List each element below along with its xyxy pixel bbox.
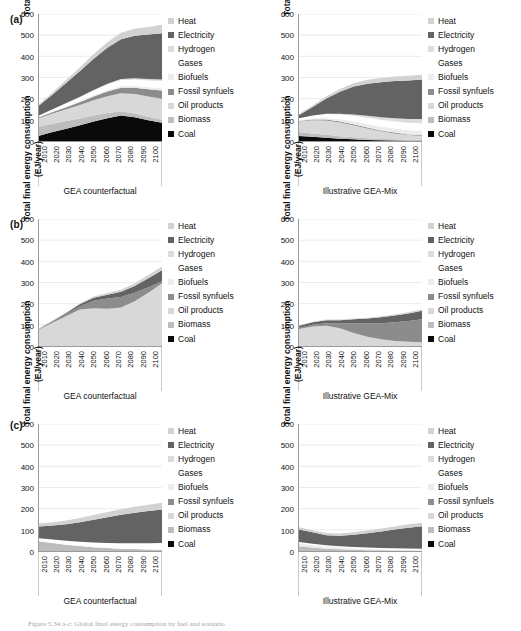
legend-label: Gases [438, 59, 463, 68]
legend-item-hydrogen[interactable]: Hydrogen [428, 42, 520, 56]
x-axis-ticks: 2010202020302040205020602070208020902100 [38, 351, 162, 387]
legend-label: Electricity [178, 236, 214, 245]
panel-subtitle: GEA counterfactual [22, 596, 178, 606]
legend-item-fossil-synfuels[interactable]: Fossil synfuels [428, 84, 520, 98]
legend-item-hydrogen[interactable]: Hydrogen [168, 247, 260, 261]
legend-item-heat[interactable]: Heat [168, 14, 260, 28]
x-tick-label: 2020 [312, 351, 321, 368]
legend-item-oil-products[interactable]: Oil products [168, 99, 260, 113]
legend-swatch-icon [168, 527, 174, 533]
legend-item-biofuels[interactable]: Biofuels [168, 275, 260, 289]
legend-label: Biofuels [438, 278, 468, 287]
legend-item-oil-products[interactable]: Oil products [428, 99, 520, 113]
y-tick-label: 400 [281, 52, 294, 61]
legend-label: Coal [178, 130, 195, 139]
plot-area: 0100200300400500600 [38, 14, 162, 142]
legend-item-heat[interactable]: Heat [428, 14, 520, 28]
legend-swatch-icon [168, 294, 174, 300]
legend-item-gases[interactable]: Gases [428, 56, 520, 70]
legend-item-biomass[interactable]: Biomass [428, 113, 520, 127]
legend-item-coal[interactable]: Coal [428, 127, 520, 141]
legend-item-coal[interactable]: Coal [168, 537, 260, 551]
legend-item-gases[interactable]: Gases [168, 261, 260, 275]
legend-item-electricity[interactable]: Electricity [428, 233, 520, 247]
legend-item-biomass[interactable]: Biomass [168, 113, 260, 127]
legend-item-fossil-synfuels[interactable]: Fossil synfuels [168, 289, 260, 303]
legend-item-biofuels[interactable]: Biofuels [428, 275, 520, 289]
legend-swatch-icon [428, 32, 434, 38]
legend-item-heat[interactable]: Heat [168, 219, 260, 233]
legend-item-electricity[interactable]: Electricity [428, 28, 520, 42]
x-tick-label: 2040 [337, 556, 346, 573]
legend-item-electricity[interactable]: Electricity [428, 438, 520, 452]
y-tick-label: 300 [281, 74, 294, 83]
legend-item-biomass[interactable]: Biomass [428, 318, 520, 332]
legend-item-fossil-synfuels[interactable]: Fossil synfuels [168, 84, 260, 98]
legend-item-gases[interactable]: Gases [428, 466, 520, 480]
legend-item-electricity[interactable]: Electricity [168, 28, 260, 42]
area-series-electricity [299, 80, 422, 119]
figure-row-c: (c) Total final energy consumption(EJ/ye… [0, 410, 521, 615]
legend-item-coal[interactable]: Coal [168, 332, 260, 346]
x-tick-label: 2100 [151, 556, 160, 573]
legend-item-coal[interactable]: Coal [428, 537, 520, 551]
figure-row-b: (b) Total final energy consumption(EJ/ye… [0, 205, 521, 410]
legend-item-hydrogen[interactable]: Hydrogen [428, 452, 520, 466]
legend-label: Hydrogen [438, 45, 475, 54]
legend-item-fossil-synfuels[interactable]: Fossil synfuels [428, 494, 520, 508]
legend-item-biomass[interactable]: Biomass [428, 523, 520, 537]
legend-item-biofuels[interactable]: Biofuels [428, 480, 520, 494]
legend-item-hydrogen[interactable]: Hydrogen [168, 42, 260, 56]
legend-item-fossil-synfuels[interactable]: Fossil synfuels [168, 494, 260, 508]
legend-swatch-icon [428, 336, 434, 342]
legend-item-biomass[interactable]: Biomass [168, 523, 260, 537]
legend-item-coal[interactable]: Coal [428, 332, 520, 346]
x-tick-label: 2100 [411, 146, 420, 163]
legend-swatch-icon [428, 294, 434, 300]
legend-item-biomass[interactable]: Biomass [168, 318, 260, 332]
plot-area: 0100200300400500600 [298, 219, 422, 347]
legend-swatch-icon [168, 456, 174, 462]
y-tick-label: 500 [281, 441, 294, 450]
y-tick-label: 300 [21, 74, 34, 83]
legend-item-gases[interactable]: Gases [168, 466, 260, 480]
legend-label: Biomass [438, 525, 471, 534]
legend-item-oil-products[interactable]: Oil products [168, 509, 260, 523]
legend-label: Coal [438, 130, 455, 139]
x-tick-label: 2050 [89, 146, 98, 163]
legend-item-oil-products[interactable]: Oil products [428, 304, 520, 318]
y-tick-label: 300 [21, 279, 34, 288]
x-axis-ticks: 2010202020302040205020602070208020902100 [298, 556, 422, 592]
legend-item-coal[interactable]: Coal [168, 127, 260, 141]
legend-item-heat[interactable]: Heat [168, 424, 260, 438]
legend-item-biofuels[interactable]: Biofuels [428, 70, 520, 84]
panel-subtitle: Illustrative GEA-Mix [282, 186, 438, 196]
legend-item-electricity[interactable]: Electricity [168, 438, 260, 452]
chart-legend: HeatElectricityHydrogenGasesBiofuelsFoss… [168, 14, 260, 141]
legend-item-heat[interactable]: Heat [428, 424, 520, 438]
legend-swatch-icon [428, 322, 434, 328]
x-tick-label: 2020 [312, 556, 321, 573]
y-tick-label: 600 [281, 420, 294, 429]
legend-item-heat[interactable]: Heat [428, 219, 520, 233]
y-tick-label: 100 [281, 526, 294, 535]
legend-item-biofuels[interactable]: Biofuels [168, 480, 260, 494]
legend-item-electricity[interactable]: Electricity [168, 233, 260, 247]
y-tick-label: 200 [281, 505, 294, 514]
legend-label: Hydrogen [438, 250, 475, 259]
legend-item-gases[interactable]: Gases [168, 56, 260, 70]
x-tick-label: 2020 [312, 146, 321, 163]
legend-item-biofuels[interactable]: Biofuels [168, 70, 260, 84]
chart-plot-c-right [298, 424, 422, 552]
legend-item-hydrogen[interactable]: Hydrogen [428, 247, 520, 261]
legend-swatch-icon [168, 237, 174, 243]
chart-legend: HeatElectricityHydrogenGasesBiofuelsFoss… [168, 219, 260, 346]
x-tick-label: 2030 [324, 351, 333, 368]
legend-item-oil-products[interactable]: Oil products [428, 509, 520, 523]
legend-item-hydrogen[interactable]: Hydrogen [168, 452, 260, 466]
y-axis-title: Total final energy consumption(EJ/year) [22, 97, 36, 221]
legend-item-fossil-synfuels[interactable]: Fossil synfuels [428, 289, 520, 303]
legend-item-gases[interactable]: Gases [428, 261, 520, 275]
legend-item-oil-products[interactable]: Oil products [168, 304, 260, 318]
legend-swatch-icon [428, 541, 434, 547]
